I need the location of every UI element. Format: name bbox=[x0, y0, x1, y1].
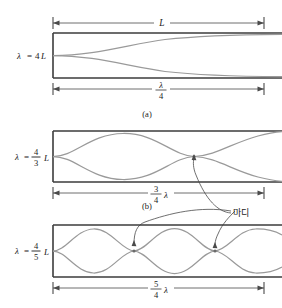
node-annotation-label: 마디 bbox=[233, 208, 249, 218]
panel-b-lambda-symbol: λ bbox=[14, 152, 19, 162]
panel-b-coefficient-denominator: 3 bbox=[34, 158, 38, 168]
panel-c-tube bbox=[53, 225, 282, 277]
panel-a-wave bbox=[53, 34, 282, 76]
panel-b-bottom-dimension: 3 4 λ bbox=[53, 183, 264, 205]
panel-c-coefficient-denominator: 5 bbox=[34, 252, 38, 262]
panel-b-fraction-numerator: 3 bbox=[154, 184, 158, 194]
panel-c-lambda-symbol: λ bbox=[14, 246, 19, 256]
panel-a-caption: (a) bbox=[142, 109, 152, 119]
panel-a-wavelength-label: λ = 4 L bbox=[16, 51, 46, 61]
panel-a-lambda-symbol: λ bbox=[16, 51, 21, 61]
panel-a-length-symbol: L bbox=[40, 51, 46, 61]
panel-b-length-symbol: L bbox=[43, 153, 49, 163]
panel-a-lambda-numerator: λ bbox=[158, 80, 163, 90]
panel-b-lambda-suffix: λ bbox=[163, 190, 168, 200]
panel-c-coefficient-numerator: 4 bbox=[34, 241, 39, 251]
panel-b-coefficient-numerator: 4 bbox=[34, 147, 39, 157]
panel-a-bottom-dimension: λ 4 bbox=[53, 79, 264, 101]
panel-c-node-marker-1 bbox=[132, 249, 135, 252]
panel-b-wavelength-label: λ = 4 3 L bbox=[14, 147, 49, 168]
panel-b-wave bbox=[53, 132, 282, 182]
panel-a-top-dimension: L bbox=[53, 15, 264, 30]
panel-a-coefficient: 4 bbox=[35, 51, 40, 61]
panel-a-length-label: L bbox=[158, 18, 164, 28]
panel-c-equals: = bbox=[24, 246, 29, 256]
panel-c-wave bbox=[53, 229, 282, 274]
standing-wave-figure: L λ 4 λ = 4 L (a) bbox=[0, 0, 282, 308]
panel-a-equals: = bbox=[27, 51, 32, 61]
panel-c-length-symbol: L bbox=[43, 247, 49, 257]
panel-c-fraction-numerator: 5 bbox=[154, 279, 158, 289]
panel-c-bottom-dimension: 5 4 λ bbox=[53, 278, 264, 300]
panel-c-node-marker-2 bbox=[213, 249, 216, 252]
panel-c-wavelength-label: λ = 4 5 L bbox=[14, 241, 49, 262]
panel-b-equals: = bbox=[24, 152, 29, 162]
panel-b-caption: (b) bbox=[142, 201, 152, 211]
panel-c-lambda-suffix: λ bbox=[163, 285, 168, 295]
